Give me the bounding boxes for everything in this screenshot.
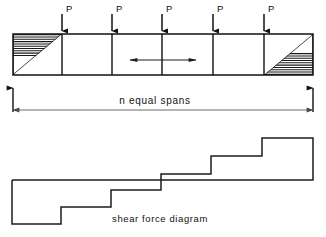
point-load-2: P: [112, 3, 122, 31]
point-load-3: P: [162, 3, 172, 31]
point-load-4: P: [213, 3, 223, 31]
point-load-1: P: [62, 3, 72, 31]
beam-diagram: [13, 34, 313, 75]
shear-step-polyline: [12, 138, 313, 224]
load-group: P P P P P: [62, 3, 274, 31]
figure-container: P P P P P: [0, 0, 326, 237]
dimension-label: n equal spans: [119, 95, 190, 106]
span-dimension: n equal spans: [13, 88, 313, 112]
load-label: P: [166, 3, 172, 14]
point-load-5: P: [264, 3, 274, 31]
load-label: P: [116, 3, 122, 14]
left-end-hatch: [13, 34, 62, 75]
right-end-hatch: [264, 34, 313, 75]
load-label: P: [66, 3, 72, 14]
shear-force-diagram: shear force diagram: [12, 138, 313, 224]
load-label: P: [217, 3, 223, 14]
load-label: P: [268, 3, 274, 14]
beam-shear-figure: P P P P P: [0, 0, 326, 237]
shear-diagram-caption: shear force diagram: [112, 213, 208, 224]
beam-outline: [13, 34, 313, 75]
